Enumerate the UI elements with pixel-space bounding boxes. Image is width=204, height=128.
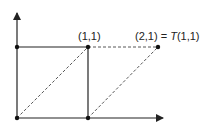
label-21-arg: (1,1) [177,30,200,42]
diagonal-10-to-21 [88,47,158,118]
point-10 [86,116,90,120]
diagonal-origin-to-11 [17,47,88,118]
label-point-11: (1,1) [78,30,101,42]
label-21-prefix: (2,1) = [135,30,170,42]
shear-diagram: (1,1) (2,1) = T(1,1) [0,0,204,128]
point-21 [156,45,160,49]
point-01 [15,45,19,49]
label-point-21: (2,1) = T(1,1) [135,30,200,42]
point-11 [86,45,90,49]
point-origin [15,116,19,120]
